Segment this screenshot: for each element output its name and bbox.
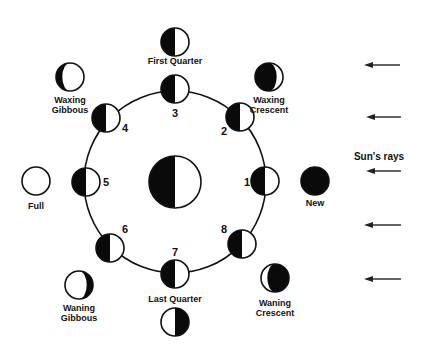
- phase-label: Waxing: [54, 95, 86, 105]
- position-number: 5: [103, 176, 109, 188]
- phase-label: Waxing: [253, 95, 285, 105]
- orbit-position-5: 5: [72, 168, 109, 196]
- sun-ray-arrow-icon: [364, 276, 401, 282]
- phase-label: Gibbous: [52, 105, 89, 115]
- position-number: 3: [172, 107, 178, 119]
- position-number: 4: [122, 122, 129, 134]
- phase-waxing-gibbous: WaxingGibbous: [52, 63, 89, 115]
- phase-label: First Quarter: [148, 56, 203, 66]
- orbit-position-3: 3: [161, 75, 189, 119]
- sun-rays-label: Sun's rays: [354, 151, 405, 162]
- new-moon-icon: [301, 167, 329, 195]
- position-number: 2: [221, 125, 227, 137]
- phase-label: Last Quarter: [148, 294, 202, 304]
- phase-label: Full: [28, 201, 44, 211]
- sun-ray-arrow-icon: [364, 222, 401, 228]
- earth: [149, 156, 201, 208]
- waxing-crescent-moon-icon: [255, 63, 283, 91]
- moon-half-lit-icon: [72, 168, 100, 196]
- moon-half-lit-icon: [161, 260, 189, 288]
- phase-waning-crescent: WaningCrescent: [256, 264, 295, 318]
- phase-label: Waning: [63, 303, 95, 313]
- moon-phases-diagram: 12345678 NewWaxingCrescentFirst QuarterW…: [0, 0, 423, 352]
- earth-icon: [149, 156, 201, 208]
- phase-new: New: [301, 167, 329, 208]
- phase-label: New: [306, 198, 326, 208]
- waning-crescent-moon-icon: [261, 264, 289, 292]
- full-moon-icon: [22, 167, 50, 195]
- phase-label: Waning: [259, 298, 291, 308]
- moon-half-lit-icon: [251, 167, 279, 195]
- phase-label: Gibbous: [61, 313, 98, 323]
- phase-label: Crescent: [256, 308, 295, 318]
- phase-waning-gibbous: WaningGibbous: [61, 271, 98, 323]
- position-number: 8: [221, 223, 227, 235]
- sun-ray-arrow-icon: [364, 62, 400, 68]
- moon-half-lit-icon: [96, 234, 124, 262]
- sun-ray-arrow-icon: [366, 168, 401, 174]
- moon-half-lit-icon: [161, 75, 189, 103]
- orbit-position-8: 8: [221, 223, 256, 258]
- sun-rays: Sun's rays: [354, 62, 405, 282]
- position-number: 7: [172, 246, 178, 258]
- moon-half-lit-icon: [228, 230, 256, 258]
- position-number: 6: [122, 223, 128, 235]
- first-quarter-moon-icon: [161, 28, 189, 56]
- moon-half-lit-icon: [92, 104, 120, 132]
- orbit-position-1: 1: [244, 167, 279, 195]
- phase-full: Full: [22, 167, 50, 211]
- waning-gibbous-moon-icon: [65, 271, 93, 299]
- phase-label: Crescent: [250, 105, 289, 115]
- position-number: 1: [244, 176, 250, 188]
- orbit-position-4: 4: [92, 104, 129, 134]
- sun-ray-arrow-icon: [366, 114, 401, 120]
- orbit-position-7: 7: [161, 246, 189, 288]
- phase-waxing-crescent: WaxingCrescent: [250, 63, 289, 115]
- phase-first-quarter: First Quarter: [148, 28, 203, 66]
- diagram-canvas: 12345678 NewWaxingCrescentFirst QuarterW…: [0, 0, 423, 352]
- last-quarter-moon-icon: [161, 308, 189, 336]
- phase-last-quarter: Last Quarter: [148, 294, 202, 336]
- waxing-gibbous-moon-icon: [56, 63, 84, 91]
